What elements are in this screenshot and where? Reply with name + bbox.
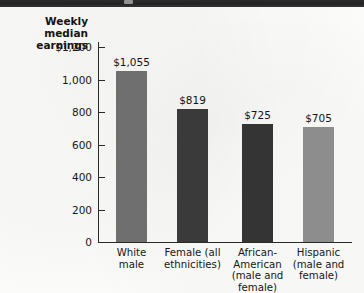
y-axis-tick-label: $1,200 — [32, 42, 92, 52]
x-axis-category-label: Hispanic(male andfemale) — [276, 247, 362, 282]
x-axis-category-label-line: Hispanic — [276, 247, 362, 259]
y-axis-tick-label: 1,000 — [32, 75, 92, 85]
bar[interactable] — [303, 127, 334, 242]
bar-value-label: $1,055 — [102, 57, 162, 68]
y-axis-tick-mark — [99, 145, 105, 146]
bar-value-label: $819 — [163, 95, 223, 106]
y-axis-tick-label: 800 — [32, 107, 92, 117]
y-axis-tick-label: 400 — [32, 172, 92, 182]
y-axis-tick-label: 0 — [32, 237, 92, 247]
x-axis-category-label-line: female) — [276, 270, 362, 282]
figure-root: Weekly median earnings $1,2001,000800600… — [0, 0, 364, 293]
bar-value-label: $705 — [289, 113, 349, 124]
plot-area: $1,2001,0008006004002000 $1,055$819$725$… — [0, 0, 364, 293]
y-axis-tick-mark — [99, 47, 105, 48]
bar[interactable] — [116, 71, 147, 242]
bar[interactable] — [242, 124, 273, 242]
y-axis-tick-label: 200 — [32, 205, 92, 215]
y-axis-tick-mark — [99, 177, 105, 178]
y-axis-tick-label: 600 — [32, 140, 92, 150]
bar-value-label: $725 — [228, 110, 288, 121]
y-axis-line — [98, 42, 99, 243]
x-axis-line — [98, 242, 352, 243]
y-axis-tick-mark — [99, 112, 105, 113]
x-axis-category-label-line: (male and — [276, 259, 362, 271]
x-axis-category-label-line: female) — [215, 282, 301, 293]
bar[interactable] — [177, 109, 208, 242]
y-axis-tick-mark — [99, 80, 105, 81]
y-axis-tick-mark — [99, 210, 105, 211]
